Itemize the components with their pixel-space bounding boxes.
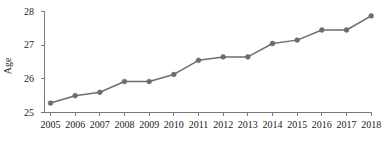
data-point-2015	[295, 38, 300, 43]
x-tick-label-2009: 2009	[139, 119, 159, 130]
y-tick-label-25: 25	[24, 107, 34, 118]
x-tick-label-2010: 2010	[164, 119, 184, 130]
x-tick-label-2016: 2016	[312, 119, 332, 130]
x-tick-label-2012: 2012	[213, 119, 233, 130]
data-point-2014	[270, 41, 275, 46]
x-tick-label-2017: 2017	[337, 119, 357, 130]
x-tick-label-2007: 2007	[90, 119, 110, 130]
data-point-2013	[245, 55, 250, 60]
x-axis-labels: 2005 2006 2007 2008 2009 2010 2011 2012 …	[41, 119, 382, 130]
data-point-2007	[97, 90, 102, 95]
x-tick-label-2015: 2015	[287, 119, 307, 130]
line-chart: Age 28 27 26 25	[0, 0, 386, 144]
x-tick-label-2018: 2018	[361, 119, 381, 130]
data-point-2016	[319, 28, 324, 33]
data-point-2011	[196, 58, 201, 63]
chart-canvas: Age 28 27 26 25	[0, 0, 386, 144]
x-tick-label-2013: 2013	[238, 119, 258, 130]
data-point-2017	[344, 28, 349, 33]
x-tick-label-2008: 2008	[115, 119, 135, 130]
data-point-2010	[171, 72, 176, 77]
data-point-2006	[73, 93, 78, 98]
age-series-markers	[48, 13, 374, 105]
x-tick-label-2014: 2014	[263, 119, 283, 130]
data-point-2012	[221, 55, 226, 60]
y-tick-label-26: 26	[24, 73, 34, 84]
y-tick-label-27: 27	[24, 39, 34, 50]
data-point-2009	[147, 79, 152, 84]
y-axis-title: Age	[2, 57, 13, 74]
data-point-2018	[369, 13, 374, 18]
data-point-2008	[122, 79, 127, 84]
y-tick-label-28: 28	[24, 6, 34, 17]
x-tick-label-2006: 2006	[65, 119, 85, 130]
x-tick-label-2011: 2011	[189, 119, 209, 130]
x-axis-ticks	[51, 113, 372, 117]
x-tick-label-2005: 2005	[41, 119, 61, 130]
data-point-2005	[48, 101, 53, 106]
